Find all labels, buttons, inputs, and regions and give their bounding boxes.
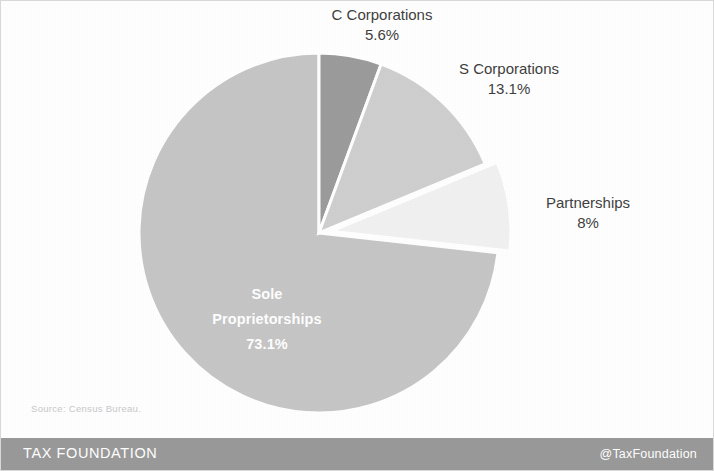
label-s-corporations-name: S Corporations bbox=[409, 59, 609, 79]
label-partnerships-value: 8% bbox=[493, 213, 683, 233]
label-c-corporations-value: 5.6% bbox=[282, 25, 482, 45]
source-note: Source: Census Bureau. bbox=[31, 403, 141, 414]
label-s-corporations-value: 13.1% bbox=[409, 79, 609, 99]
label-sole-proprietorships-name-line1: Sole bbox=[179, 282, 355, 307]
label-sole-proprietorships-name-line2: Proprietorships bbox=[179, 307, 355, 332]
label-c-corporations: C Corporations 5.6% bbox=[282, 5, 482, 45]
label-partnerships: Partnerships 8% bbox=[493, 193, 683, 233]
label-partnerships-name: Partnerships bbox=[493, 193, 683, 213]
footer-social-handle[interactable]: @TaxFoundation bbox=[600, 447, 698, 461]
footer-bar: TAX FOUNDATION @TaxFoundation bbox=[1, 438, 713, 470]
label-sole-proprietorships-value: 73.1% bbox=[179, 332, 355, 357]
pie-chart-area: C Corporations 5.6% S Corporations 13.1%… bbox=[1, 1, 713, 429]
label-sole-proprietorships: Sole Proprietorships 73.1% bbox=[179, 282, 355, 357]
label-c-corporations-name: C Corporations bbox=[282, 5, 482, 25]
label-s-corporations: S Corporations 13.1% bbox=[409, 59, 609, 99]
chart-page: C Corporations 5.6% S Corporations 13.1%… bbox=[0, 0, 714, 471]
footer-brand-label: TAX FOUNDATION bbox=[23, 445, 157, 461]
